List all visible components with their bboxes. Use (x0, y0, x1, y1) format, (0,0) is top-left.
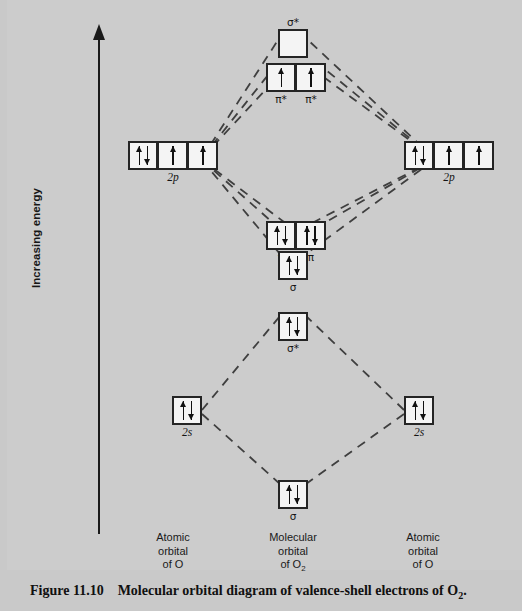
orbital-box[interactable] (278, 251, 308, 280)
caption-line: Atomic (118, 531, 228, 545)
electron-arrows (445, 146, 452, 165)
electron-arrows (199, 146, 206, 165)
orbital-box[interactable] (128, 141, 158, 170)
figure-number: Figure 11.10 (30, 583, 104, 598)
electron-arrows (307, 68, 314, 87)
electron-arrow-down (311, 226, 318, 245)
caption-line: of O (368, 558, 478, 572)
electron-arrow-up (286, 256, 293, 275)
caption-line: Molecular (238, 531, 348, 545)
electron-arrow-up (303, 226, 310, 245)
orbital-label-sigma-star-2p: σ* (278, 16, 308, 28)
column-caption-molecular: Molecular orbital of O2 (238, 531, 348, 576)
electron-arrows (412, 401, 427, 420)
orbital-box[interactable] (296, 63, 326, 92)
electron-arrows (412, 146, 427, 165)
sublabels-pi-star-2p: π* π* (266, 93, 326, 105)
box-row-sigma-star-2s (278, 312, 308, 341)
electron-arrow-up (445, 146, 452, 165)
orbital-box[interactable] (172, 396, 202, 425)
orbital-box[interactable] (278, 480, 308, 509)
box-row-left-2s (172, 396, 202, 425)
figure-caption-text: Molecular orbital diagram of valence-she… (118, 583, 458, 598)
orbital-box[interactable] (404, 141, 434, 170)
electron-arrow-down (144, 146, 151, 165)
column-caption-right-atomic: Atomic orbital of O (368, 531, 478, 572)
electron-arrows (278, 68, 285, 87)
caption-line: orbital (238, 545, 348, 559)
electron-arrow-up (136, 146, 143, 165)
electron-arrow-up (169, 146, 176, 165)
orbital-box[interactable] (266, 221, 296, 250)
electron-arrow-up (278, 68, 285, 87)
electron-arrow-down (188, 401, 195, 420)
box-row-pi-2p (266, 221, 326, 250)
electron-arrow-down (420, 146, 427, 165)
caption-line: Atomic (368, 531, 478, 545)
box-row-sigma-2s (278, 480, 308, 509)
energy-axis (93, 24, 105, 534)
orbital-label-left-2p: 2p (128, 171, 218, 183)
box-row-sigma-star-2p (278, 29, 308, 58)
caption-line-text: of O (280, 558, 301, 570)
caption-line: of O (118, 558, 228, 572)
electron-arrow-up (412, 146, 419, 165)
orbital-left-2p: 2p (128, 141, 218, 183)
electron-arrow-up (180, 401, 187, 420)
orbital-sigma-2p: σ (278, 251, 308, 293)
orbital-right-2p: 2p (404, 141, 494, 183)
orbital-box[interactable] (464, 141, 494, 170)
orbital-label-right-2s: 2s (404, 426, 434, 438)
caption-line: orbital (368, 545, 478, 559)
correlation-lines (0, 0, 522, 570)
electron-arrows (286, 317, 301, 336)
electron-arrows (475, 146, 482, 165)
electron-arrow-down (420, 401, 427, 420)
electron-arrow-up (286, 485, 293, 504)
orbital-label-left-2s: 2s (172, 426, 202, 438)
orbital-box[interactable] (404, 396, 434, 425)
electron-arrow-up (412, 401, 419, 420)
orbital-box[interactable] (188, 141, 218, 170)
electron-arrows (303, 226, 318, 245)
electron-arrows (180, 401, 195, 420)
caption-subscript: 2 (301, 564, 305, 573)
electron-arrows (274, 226, 289, 245)
orbital-label-sigma-2s: σ (278, 510, 308, 522)
electron-arrows (136, 146, 151, 165)
orbital-box[interactable] (278, 312, 308, 341)
axis-shaft (98, 32, 100, 534)
electron-arrow-up (286, 317, 293, 336)
box-row-left-2p (128, 141, 218, 170)
orbital-box[interactable] (434, 141, 464, 170)
orbital-label-right-2p: 2p (404, 171, 494, 183)
electron-arrows (169, 146, 176, 165)
orbital-label-sigma-2p: σ (278, 281, 308, 293)
orbital-box[interactable] (278, 29, 308, 58)
orbital-box[interactable] (266, 63, 296, 92)
figure-caption: Figure 11.10Molecular orbital diagram of… (30, 583, 510, 601)
energy-axis-label: Increasing energy (30, 168, 42, 308)
caption-line: orbital (118, 545, 228, 559)
box-row-sigma-2p (278, 251, 308, 280)
orbital-left-2s: 2s (172, 396, 202, 438)
orbital-box[interactable] (158, 141, 188, 170)
caption-line: of O2 (238, 558, 348, 576)
orbital-pi-star-2p: π* π* (266, 63, 326, 105)
electron-arrow-up (307, 68, 314, 87)
orbital-label-pi-star: π* (296, 93, 326, 105)
orbital-box[interactable] (296, 221, 326, 250)
electron-arrows (286, 485, 301, 504)
orbital-right-2s: 2s (404, 396, 434, 438)
orbital-sigma-star-2p: σ* (278, 16, 308, 58)
orbital-label-pi-star: π* (266, 93, 296, 105)
column-caption-left-atomic: Atomic orbital of O (118, 531, 228, 572)
figure-caption-end: . (463, 583, 467, 598)
box-row-right-2p (404, 141, 494, 170)
electron-arrow-up (274, 226, 281, 245)
electron-arrow-down (294, 256, 301, 275)
electron-arrow-up (199, 146, 206, 165)
box-row-right-2s (404, 396, 434, 425)
electron-arrow-up (475, 146, 482, 165)
electron-arrow-down (294, 317, 301, 336)
